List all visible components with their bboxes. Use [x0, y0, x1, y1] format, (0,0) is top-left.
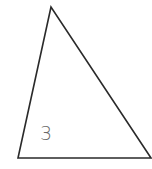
diagram-canvas: 3	[0, 0, 152, 169]
triangle-label: 3	[40, 124, 52, 143]
triangle-shape	[0, 0, 152, 169]
